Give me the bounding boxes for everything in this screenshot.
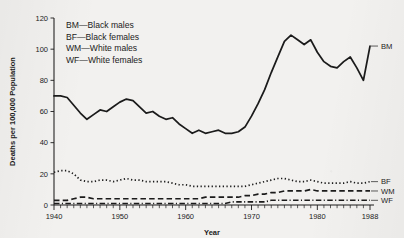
- legend-entry-wm: WM—White males: [66, 43, 137, 53]
- y-tick-label: 120: [35, 14, 48, 23]
- legend-entry-bm: BM—Black males: [66, 20, 134, 30]
- chart-figure: 020406080100120 194019501960197019801988…: [0, 0, 404, 238]
- y-tick-label: 80: [40, 76, 48, 85]
- x-axis-minor-ticks: [54, 205, 370, 210]
- y-tick-label: 20: [40, 170, 48, 179]
- x-tick-label: 1940: [46, 212, 63, 221]
- y-tick-label: 60: [40, 107, 48, 116]
- legend-entry-bf: BF—Black females: [66, 32, 139, 42]
- line-chart-svg: 020406080100120 194019501960197019801988…: [0, 0, 404, 238]
- y-axis-tick-labels: 020406080100120: [35, 14, 48, 210]
- x-tick-label: 1960: [177, 212, 194, 221]
- y-axis-title: Deaths per 100,000 Population: [8, 57, 17, 166]
- series-line-white-females: [54, 200, 370, 203]
- y-tick-label: 0: [44, 201, 48, 210]
- x-axis-tick-labels: 194019501960197019801988: [46, 212, 379, 221]
- end-label-wm: WM: [381, 187, 395, 196]
- x-tick-label: 1950: [111, 212, 128, 221]
- legend-block: BM—Black malesBF—Black femalesWM—White m…: [66, 20, 142, 65]
- end-label-bf: BF: [381, 177, 391, 186]
- series-line-black-females: [54, 171, 370, 187]
- x-tick-label: 1980: [309, 212, 326, 221]
- end-label-bm: BM: [381, 42, 392, 51]
- x-axis-title: Year: [204, 228, 220, 237]
- series-end-labels: BMBFWMWF: [371, 42, 395, 205]
- x-tick-label: 1988: [362, 212, 379, 221]
- y-tick-label: 40: [40, 138, 48, 147]
- x-tick-label: 1970: [243, 212, 260, 221]
- series-line-white-males: [54, 189, 370, 200]
- y-tick-label: 100: [35, 45, 48, 54]
- end-label-wf: WF: [381, 196, 393, 205]
- legend-entry-wf: WF—White females: [66, 55, 142, 65]
